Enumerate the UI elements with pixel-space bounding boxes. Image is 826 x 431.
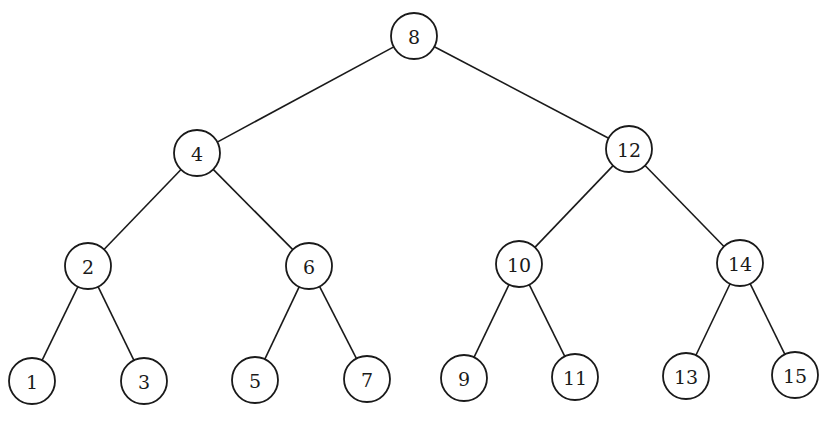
tree-nodes: 841226101413579111315 [9, 13, 818, 404]
edge-4-2 [104, 170, 181, 250]
node-label: 15 [783, 365, 807, 387]
node-label: 7 [361, 369, 373, 391]
node-label: 3 [138, 371, 150, 393]
edge-4-6 [213, 169, 293, 249]
tree-node-10: 10 [496, 241, 542, 287]
tree-node-13: 13 [663, 353, 709, 399]
tree-node-8: 8 [391, 13, 437, 59]
node-label: 5 [249, 370, 261, 392]
tree-edges [42, 47, 785, 361]
tree-node-11: 11 [552, 354, 598, 400]
tree-node-4: 4 [174, 130, 220, 176]
node-label: 13 [674, 366, 698, 388]
node-label: 1 [26, 371, 38, 393]
edge-10-9 [474, 285, 509, 358]
node-label: 12 [617, 139, 641, 161]
edge-10-11 [529, 285, 565, 357]
tree-node-6: 6 [286, 243, 332, 289]
edge-12-14 [645, 165, 724, 246]
node-label: 11 [563, 367, 587, 389]
edge-6-5 [265, 287, 299, 359]
node-label: 8 [408, 26, 420, 48]
tree-node-15: 15 [772, 352, 818, 398]
tree-node-2: 2 [65, 243, 111, 289]
edge-8-12 [434, 47, 608, 139]
edge-8-4 [217, 47, 394, 142]
edge-6-7 [320, 286, 357, 358]
edge-2-1 [42, 287, 78, 361]
edge-2-3 [98, 287, 134, 361]
tree-node-5: 5 [232, 357, 278, 403]
node-label: 4 [191, 143, 203, 165]
node-label: 10 [507, 254, 531, 276]
node-label: 14 [728, 253, 752, 275]
edge-14-15 [750, 284, 785, 355]
edge-14-13 [696, 284, 730, 355]
node-label: 6 [303, 256, 315, 278]
tree-node-9: 9 [441, 355, 487, 401]
tree-node-14: 14 [717, 240, 763, 286]
tree-node-1: 1 [9, 358, 55, 404]
node-label: 2 [82, 256, 94, 278]
tree-node-7: 7 [344, 356, 390, 402]
tree-node-3: 3 [121, 358, 167, 404]
binary-tree-diagram: 841226101413579111315 [0, 0, 826, 431]
node-label: 9 [458, 368, 470, 390]
edge-12-10 [535, 166, 613, 248]
tree-node-12: 12 [606, 126, 652, 172]
